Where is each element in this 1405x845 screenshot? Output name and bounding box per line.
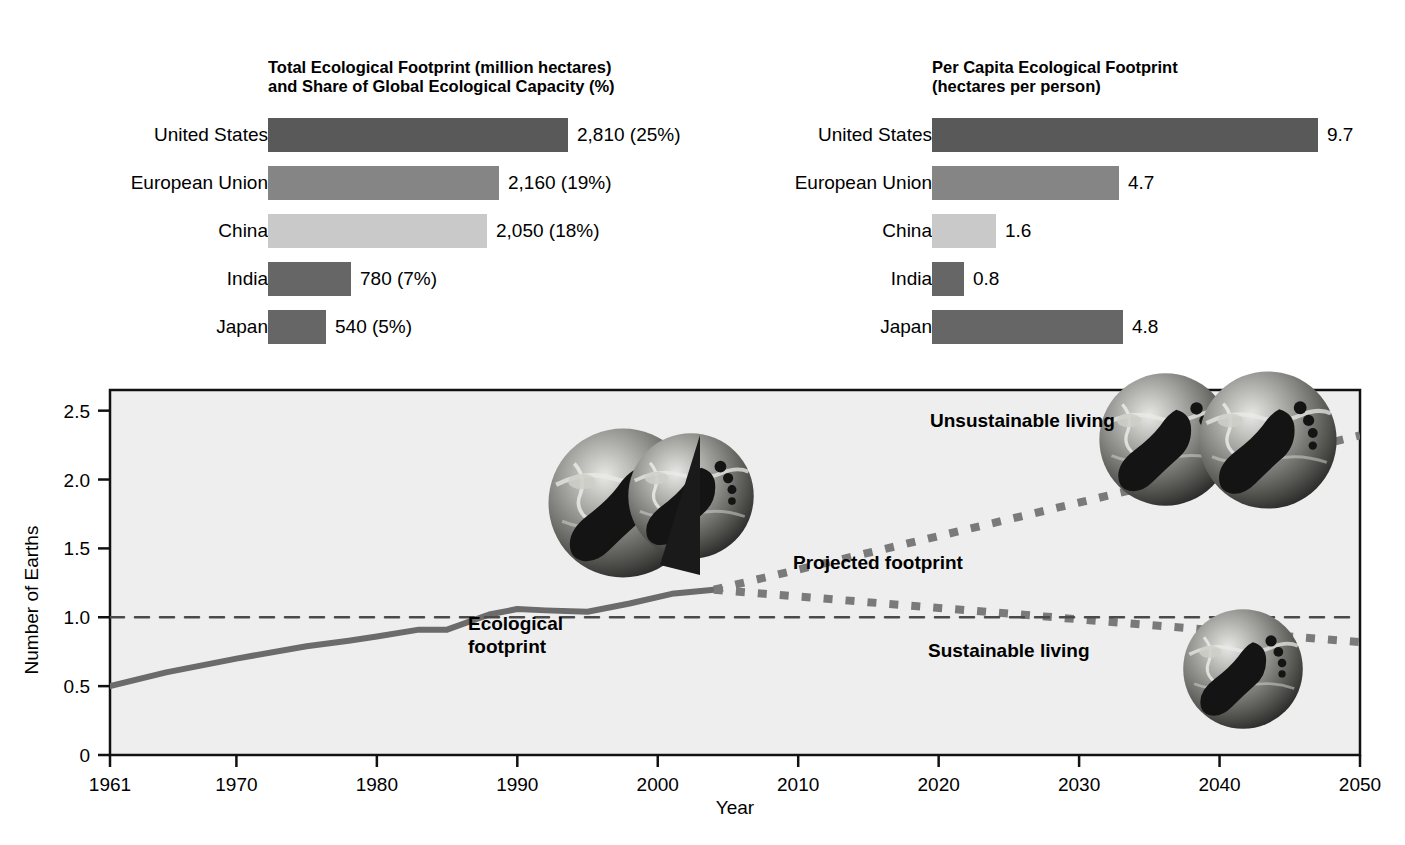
y-tick-label: 0.5 (64, 676, 90, 697)
bar-percap-0 (932, 118, 1318, 152)
bar-percap-3 (932, 262, 964, 296)
x-tick-label: 2010 (777, 774, 819, 795)
x-tick-label: 2000 (637, 774, 679, 795)
total-footprint-title: Total Ecological Footprint (million hect… (268, 58, 698, 96)
bar-percap-1 (932, 166, 1119, 200)
x-axis-ticks: 1961197019801990200020102020203020402050 (89, 755, 1381, 795)
y-tick-label: 0 (79, 745, 90, 766)
per-capita-title: Per Capita Ecological Footprint (hectare… (932, 58, 1352, 96)
x-tick-label: 2030 (1058, 774, 1100, 795)
x-axis-label: Year (716, 797, 755, 818)
infographic-root: Total Ecological Footprint (million hect… (0, 0, 1405, 845)
x-tick-label: 2040 (1198, 774, 1240, 795)
earths-line-chart: Number of Earths 00.51.01.52.02.5 196119… (0, 370, 1405, 845)
y-tick-label: 1.0 (64, 607, 90, 628)
y-tick-label: 2.5 (64, 401, 90, 422)
bar-value-label: 4.8 (1123, 310, 1158, 344)
per-capita-panel: Per Capita Ecological Footprint (hectare… (932, 58, 1352, 96)
annotation-projected-footprint: Projected footprint (793, 552, 964, 573)
bar-value-label: 9.7 (1318, 118, 1353, 152)
annotation-unsustainable-living: Unsustainable living (930, 410, 1115, 431)
globe-sustainable (1183, 609, 1303, 729)
x-tick-label: 1970 (215, 774, 257, 795)
bar-category-label: European Union (0, 166, 941, 200)
x-tick-label: 1980 (356, 774, 398, 795)
annotation-ecological-footprint-line1: Ecological (468, 613, 563, 634)
bar-category-label: United States (0, 118, 941, 152)
x-tick-label: 1961 (89, 774, 131, 795)
bar-percap-4 (932, 310, 1123, 344)
y-tick-label: 2.0 (64, 470, 90, 491)
y-tick-label: 1.5 (64, 538, 90, 559)
bar-value-label: 0.8 (964, 262, 999, 296)
per-capita-bars: United States9.7European Union4.7China1.… (0, 118, 1405, 358)
annotation-sustainable-living: Sustainable living (928, 640, 1090, 661)
annotation-ecological-footprint-line2: footprint (468, 636, 547, 657)
bar-category-label: China (0, 214, 941, 248)
bar-category-label: Japan (0, 310, 941, 344)
total-footprint-panel: Total Ecological Footprint (million hect… (268, 58, 698, 96)
bar-category-label: India (0, 262, 941, 296)
bar-value-label: 1.6 (996, 214, 1031, 248)
x-tick-label: 2050 (1339, 774, 1381, 795)
bar-percap-2 (932, 214, 996, 248)
bar-value-label: 4.7 (1119, 166, 1154, 200)
x-tick-label: 1990 (496, 774, 538, 795)
y-axis-ticks: 00.51.01.52.02.5 (64, 401, 110, 766)
y-axis-label: Number of Earths (21, 526, 42, 675)
x-tick-label: 2020 (918, 774, 960, 795)
